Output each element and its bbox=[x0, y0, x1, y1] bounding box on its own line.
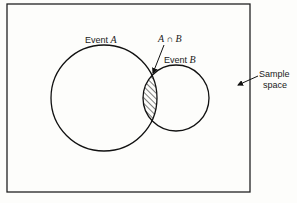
sample-space-arrow bbox=[238, 76, 258, 85]
intersection-label: A ∩ B bbox=[157, 33, 182, 44]
circle-event-a bbox=[51, 45, 157, 151]
sample-space-rect bbox=[7, 4, 250, 192]
event-a-label: Event A bbox=[85, 34, 118, 45]
venn-diagram: Event A A ∩ B Event B Sample space bbox=[0, 0, 297, 203]
event-b-label: Event B bbox=[164, 54, 196, 65]
intersection-arrow bbox=[153, 45, 164, 73]
sample-space-label-line1: Sample bbox=[259, 69, 290, 79]
sample-space-label-line2: space bbox=[263, 80, 287, 90]
